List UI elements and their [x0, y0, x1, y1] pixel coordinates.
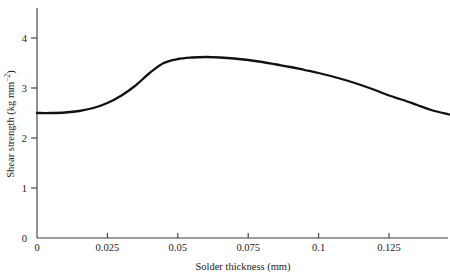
chart-canvas: 00.0250.050.0750.10.125 01234 Solder thi…	[0, 0, 450, 275]
y-tick-label-group: 01234	[22, 33, 28, 244]
x-tick-label: 0.05	[169, 242, 187, 253]
y-tick-label: 4	[22, 33, 28, 44]
y-tick-label: 1	[22, 183, 27, 194]
x-tick-label-group: 00.0250.050.0750.10.125	[34, 242, 400, 253]
x-tick-label: 0	[34, 242, 39, 253]
y-axis-title-superscript: −2	[3, 74, 12, 82]
data-curve-shear-strength	[37, 57, 449, 115]
svg-text:Shear strength (kg mm−2): Shear strength (kg mm−2)	[3, 70, 18, 178]
y-axis-title-close: )	[5, 70, 17, 74]
chart-figure: 00.0250.050.0750.10.125 01234 Solder thi…	[0, 0, 450, 275]
x-tick-group	[107, 233, 389, 238]
x-tick-label: 0.025	[96, 242, 120, 253]
axis-group	[37, 8, 448, 238]
y-axis-title: Shear strength (kg mm−2)	[3, 70, 18, 178]
x-tick-label: 0.125	[377, 242, 401, 253]
y-axis-title-main: Shear strength (kg mm	[5, 82, 17, 178]
x-tick-label: 0.1	[312, 242, 325, 253]
y-tick-label: 3	[22, 83, 27, 94]
y-tick-label: 2	[22, 133, 27, 144]
x-axis-title: Solder thickness (mm)	[195, 261, 291, 273]
x-tick-label: 0.075	[236, 242, 260, 253]
y-tick-label: 0	[22, 233, 27, 244]
